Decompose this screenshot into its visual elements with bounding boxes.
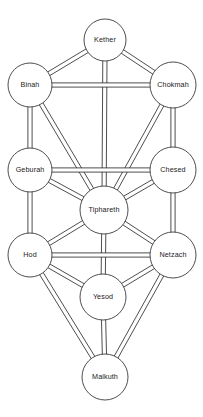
path-binah-geburah [28, 106, 32, 150]
path-tiphareth-hod [46, 220, 85, 246]
path-edge-line-2 [49, 263, 86, 284]
path-edge-line-1 [47, 182, 83, 202]
path-edge-line-2 [124, 221, 156, 242]
node-label-malkuth: Malkuth [92, 372, 118, 381]
path-chokmah-chesed [171, 107, 175, 149]
path-edge-line-2 [125, 183, 156, 201]
path-edge-line-1 [46, 48, 87, 72]
node-geburah[interactable]: Geburah [8, 148, 52, 192]
path-kether-binah [46, 48, 89, 76]
node-label-chokmah: Chokmah [157, 80, 188, 89]
path-hod-yesod [47, 263, 86, 288]
node-binah[interactable]: Binah [8, 63, 52, 107]
path-edge-line-1 [120, 53, 154, 75]
path-fill [122, 179, 155, 201]
node-label-hod: Hod [23, 250, 37, 259]
tree-of-life-canvas: KetherBinahChokmahGeburahChesedTiphareth… [0, 0, 203, 417]
node-tiphareth[interactable]: Tiphareth [80, 186, 128, 234]
path-fill [120, 49, 156, 75]
node-label-chesed: Chesed [160, 165, 185, 174]
path-chesed-tiphareth [122, 179, 155, 201]
node-label-netzach: Netzach [159, 250, 186, 259]
path-fill [47, 178, 85, 201]
node-label-yesod: Yesod [93, 292, 113, 301]
path-hod-netzach [51, 253, 152, 257]
path-yesod-malkuth [101, 318, 106, 355]
path-netzach-yesod [120, 264, 155, 287]
path-edge-line-1 [122, 224, 154, 245]
node-malkuth[interactable]: Malkuth [82, 354, 128, 400]
tree-of-life-diagram: KetherBinahChokmahGeburahChesedTiphareth… [0, 0, 203, 417]
path-kether-chokmah [120, 49, 156, 75]
path-geburah-chesed [51, 168, 152, 172]
path-binah-chokmah [51, 83, 152, 87]
node-kether[interactable]: Kether [84, 19, 126, 61]
node-chesed[interactable]: Chesed [150, 147, 196, 193]
node-hod[interactable]: Hod [8, 233, 52, 277]
node-label-kether: Kether [94, 35, 116, 44]
node-yesod[interactable]: Yesod [80, 274, 126, 320]
node-netzach[interactable]: Netzach [150, 232, 196, 278]
path-geburah-tiphareth [47, 178, 85, 201]
path-fill [28, 191, 32, 235]
path-fill [28, 106, 32, 150]
path-edge-line-2 [49, 223, 86, 246]
path-fill [46, 48, 89, 76]
path-fill [171, 107, 175, 149]
path-fill [171, 192, 175, 234]
path-edge-line-1 [120, 264, 153, 284]
node-chokmah[interactable]: Chokmah [150, 62, 196, 108]
path-fill [51, 168, 152, 172]
path-edge-line-1 [46, 220, 83, 243]
path-chesed-netzach [171, 192, 175, 234]
path-fill [46, 220, 85, 246]
path-fill [120, 264, 155, 287]
path-edge-line-2 [49, 178, 85, 198]
path-fill [47, 263, 86, 288]
node-label-tiphareth: Tiphareth [89, 205, 120, 214]
path-edge-line-1 [122, 179, 153, 197]
node-label-binah: Binah [21, 80, 40, 89]
path-edge-line-1 [47, 267, 84, 288]
path-fill [51, 83, 152, 87]
path-edge-line-2 [122, 49, 156, 71]
path-geburah-hod [28, 191, 32, 235]
path-fill [122, 221, 156, 245]
path-edge-line-2 [123, 268, 156, 288]
node-label-geburah: Geburah [16, 165, 45, 174]
path-tiphareth-netzach [122, 221, 156, 245]
path-edge-line-2 [49, 52, 90, 76]
path-fill [51, 253, 152, 257]
